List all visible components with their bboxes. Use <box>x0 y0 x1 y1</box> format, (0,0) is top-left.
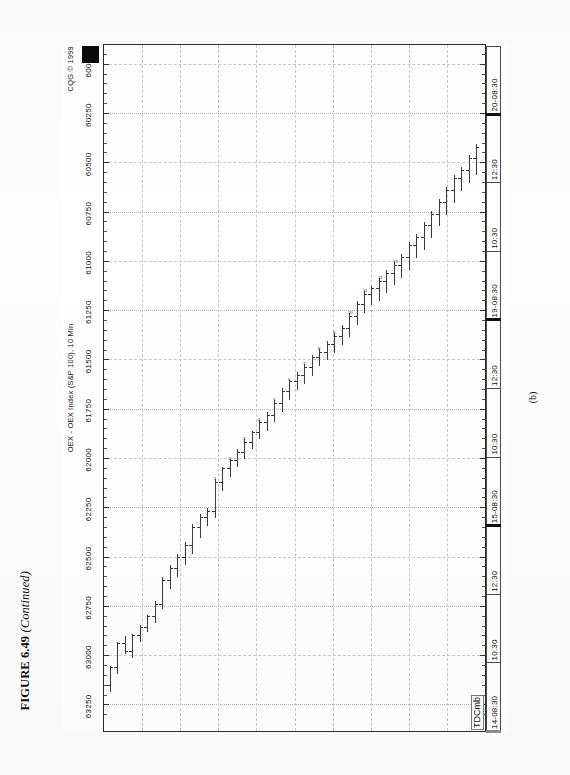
ohlc-open-tick <box>122 643 125 644</box>
price-tick-label: 60250 <box>84 103 93 127</box>
time-tick-label[interactable]: 19-08:30 <box>486 251 501 320</box>
price-scale[interactable]: 6325063000627506250062250620006175061500… <box>81 44 103 732</box>
price-tick-label: 62000 <box>84 448 93 472</box>
price-tick-label: 62750 <box>84 595 93 619</box>
ohlc-open-tick <box>249 442 252 443</box>
ohlc-open-tick <box>264 422 267 423</box>
time-tick-label[interactable]: 10:30 <box>486 183 501 252</box>
ohlc-open-tick <box>383 280 386 281</box>
ohlc-open-tick <box>219 481 222 482</box>
ohlc-close-tick <box>192 526 195 527</box>
ohlc-open-tick <box>368 294 371 295</box>
time-tick-label[interactable]: 12:30 <box>486 320 501 389</box>
ohlc-bar[interactable] <box>110 665 111 691</box>
ohlc-open-tick <box>137 635 140 636</box>
time-tick-label[interactable]: 14-08:30 <box>486 663 501 732</box>
session-separator <box>486 730 501 733</box>
time-tick-label[interactable]: 10:30 <box>486 594 501 663</box>
ohlc-close-tick <box>319 351 322 352</box>
ohlc-open-tick <box>354 316 357 317</box>
ohlc-close-tick <box>252 432 255 433</box>
ohlc-close-tick <box>207 511 210 512</box>
ohlc-open-tick <box>436 213 439 214</box>
ohlc-open-tick <box>309 367 312 368</box>
time-tick-label[interactable]: 15-08:30 <box>486 457 501 526</box>
ohlc-close-tick <box>267 414 270 415</box>
ohlc-open-tick <box>286 390 289 391</box>
time-tick-label[interactable]: 20-08:30 <box>486 46 501 115</box>
ohlc-bar[interactable] <box>476 143 477 175</box>
ohlc-bar[interactable] <box>222 466 223 490</box>
ohlc-bar[interactable] <box>215 478 216 517</box>
ohlc-close-tick <box>132 635 135 636</box>
price-tick-label: 60000 <box>84 53 93 77</box>
ohlc-close-tick <box>349 316 352 317</box>
ohlc-open-tick <box>391 272 394 273</box>
ohlc-bar[interactable] <box>252 431 253 449</box>
td-combo-count: 1 <box>214 475 216 480</box>
price-tick-label: 60500 <box>84 152 93 176</box>
ohlc-close-tick <box>469 158 472 159</box>
ohlc-open-tick <box>421 237 424 238</box>
panel-label-b: (b) <box>527 392 538 404</box>
ohlc-close-tick <box>379 280 382 281</box>
td-combo-count: 7 <box>303 361 305 366</box>
chart-header: OEX - OEX Index (S&P 100), 10 Min CQG © … <box>62 44 81 732</box>
ohlc-close-tick <box>170 568 173 569</box>
ohlc-open-tick <box>316 357 319 358</box>
session-separator <box>486 524 501 527</box>
study-label-tdcmb[interactable]: TDCmb <box>471 695 484 730</box>
ohlc-open-tick <box>204 517 207 518</box>
ohlc-bar[interactable] <box>132 634 133 658</box>
session-separator <box>486 318 501 321</box>
time-tick-label[interactable]: 12:30 <box>486 526 501 595</box>
ohlc-open-tick <box>279 402 282 403</box>
figure-caption: FIGURE 6.49 (Continued) <box>18 521 33 711</box>
ohlc-open-tick <box>361 304 364 305</box>
price-tick-label: 63000 <box>84 645 93 669</box>
ohlc-close-tick <box>446 189 449 190</box>
price-tick-label: 62500 <box>84 546 93 570</box>
ohlc-open-tick <box>197 526 200 527</box>
ohlc-open-tick <box>331 343 334 344</box>
ohlc-bar[interactable] <box>162 577 163 609</box>
ohlc-open-tick <box>152 615 155 616</box>
ohlc-open-tick <box>339 335 342 336</box>
ohlc-bar[interactable] <box>147 614 148 632</box>
td-combo-count: 12 <box>378 274 383 279</box>
ohlc-close-tick <box>327 343 330 344</box>
ohlc-close-tick <box>357 304 360 305</box>
time-axis[interactable]: 14-08:3010:3012:3015-08:3010:3012:3019-0… <box>486 44 508 732</box>
ohlc-bar[interactable] <box>117 642 118 674</box>
ohlc-bar[interactable] <box>230 458 231 476</box>
ohlc-open-tick <box>182 556 185 557</box>
td-combo-count: 10 <box>348 310 353 315</box>
ohlc-close-tick <box>162 580 165 581</box>
td-combo-count: 2 <box>229 455 231 460</box>
ohlc-close-tick <box>312 357 315 358</box>
plot-area[interactable]: 12345678910111213 TDCmb <box>103 44 486 732</box>
ohlc-open-tick <box>144 627 147 628</box>
ohlc-close-tick <box>304 367 307 368</box>
ohlc-close-tick <box>424 225 427 226</box>
ohlc-close-tick <box>125 651 128 652</box>
td-combo-count: 9 <box>333 329 335 334</box>
ohlc-close-tick <box>401 256 404 257</box>
ohlc-open-tick <box>227 467 230 468</box>
ohlc-open-tick <box>256 432 259 433</box>
ohlc-close-tick <box>177 556 180 557</box>
cqg-chart-window: OEX - OEX Index (S&P 100), 10 Min CQG © … <box>62 44 508 732</box>
ohlc-open-tick <box>466 170 469 171</box>
ohlc-bars[interactable]: 12345678910111213 <box>104 45 485 731</box>
time-tick-label[interactable]: 10:30 <box>486 389 501 458</box>
ohlc-close-tick <box>454 178 457 179</box>
ohlc-close-tick <box>386 272 389 273</box>
ohlc-bar[interactable] <box>289 380 290 400</box>
ohlc-open-tick <box>241 452 244 453</box>
time-tick-label[interactable]: 12:30 <box>486 114 501 183</box>
ohlc-open-tick <box>398 264 401 265</box>
ohlc-open-tick <box>294 381 297 382</box>
ohlc-open-tick <box>174 568 177 569</box>
price-tick-label: 60750 <box>84 201 93 225</box>
session-separator <box>486 112 501 115</box>
